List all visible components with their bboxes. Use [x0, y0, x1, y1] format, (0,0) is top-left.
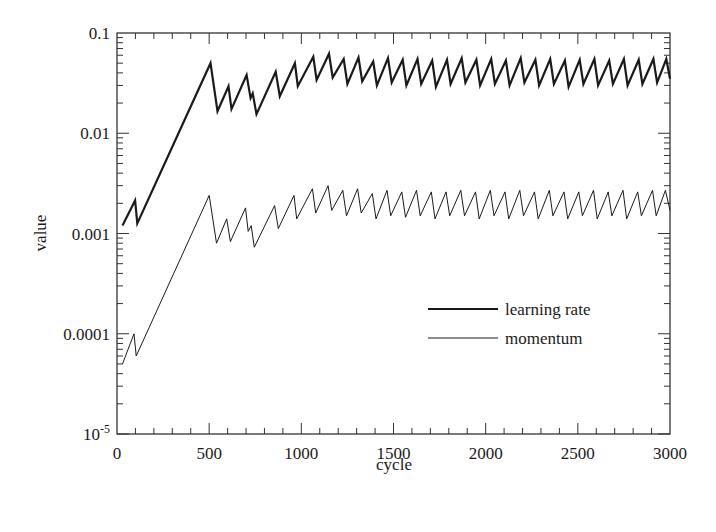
x-tick-label: 500 [196, 444, 222, 463]
legend-label-learning-rate: learning rate [505, 300, 590, 319]
plot-frame [117, 33, 670, 434]
x-axis-title: cycle [376, 455, 412, 474]
plot-border [117, 33, 670, 434]
x-tick-label: 2000 [469, 444, 503, 463]
x-tick-label: 2500 [561, 444, 595, 463]
y-minor-ticks [117, 38, 670, 434]
legend-label-momentum: momentum [505, 329, 582, 348]
series-line-momentum [123, 186, 671, 364]
x-tick-label: 1000 [284, 444, 318, 463]
y-axis-title: value [31, 215, 50, 252]
x-tick-label: 0 [113, 444, 122, 463]
x-tick-label: 3000 [653, 444, 687, 463]
y-tick-label: 0.001 [72, 225, 110, 244]
y-tick-labels: 10-50.00010.0010.010.1 [63, 24, 110, 444]
y-tick-label: 0.0001 [63, 325, 110, 344]
legend: learning rate momentum [428, 300, 590, 348]
y-tick-label: 10-5 [83, 422, 110, 444]
x-ticks [135, 33, 651, 434]
y-tick-label: 0.01 [80, 124, 110, 143]
y-tick-label: 0.1 [89, 24, 110, 43]
chart: 050010001500200025003000 10-50.00010.001… [0, 0, 716, 532]
series-line-learning-rate [123, 54, 671, 226]
